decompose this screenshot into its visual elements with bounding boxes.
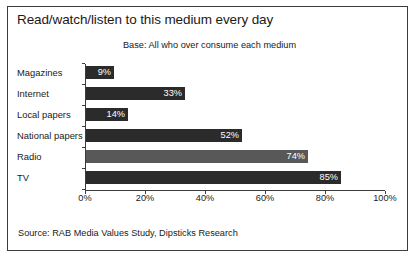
bar <box>86 150 308 163</box>
x-axis-tick <box>145 191 146 194</box>
y-axis-tick <box>82 189 85 190</box>
chart-subtitle: Base: All who over consume each medium <box>17 40 402 50</box>
y-axis-tick <box>82 126 85 127</box>
plot-area: 9%33%14%52%74%85% <box>85 64 385 191</box>
x-axis-tick <box>325 191 326 194</box>
bar <box>86 171 341 184</box>
y-axis-tick <box>82 147 85 148</box>
bar-value-label: 85% <box>313 171 341 184</box>
category-label: Magazines <box>17 67 62 78</box>
bar-value-label: 52% <box>214 129 242 142</box>
x-axis-tick-label: 60% <box>256 193 274 203</box>
x-axis-tick-label: 20% <box>136 193 154 203</box>
x-axis-line <box>85 190 385 191</box>
category-label: Local papers <box>17 109 71 120</box>
x-axis-tick <box>385 191 386 194</box>
slide-canvas: Read/watch/listen to this medium every d… <box>0 0 416 259</box>
bar-value-label: 9% <box>86 66 114 79</box>
category-label: Radio <box>17 151 42 162</box>
y-axis-tick <box>82 168 85 169</box>
y-axis-tick <box>82 105 85 106</box>
x-axis-tick <box>85 191 86 194</box>
y-axis-tick <box>82 63 85 64</box>
source-note: Source: RAB Media Values Study, Dipstick… <box>18 228 238 238</box>
x-axis-tick-label: 40% <box>196 193 214 203</box>
x-axis-tick <box>265 191 266 194</box>
bar-value-label: 74% <box>280 150 308 163</box>
x-axis-tick-label: 100% <box>373 193 397 203</box>
x-axis-tick <box>205 191 206 194</box>
bar-value-label: 14% <box>100 108 128 121</box>
category-label: National papers <box>17 130 83 141</box>
x-axis-tick-label: 0% <box>78 193 91 203</box>
x-axis-tick-label: 80% <box>316 193 334 203</box>
chart-title: Read/watch/listen to this medium every d… <box>17 12 273 27</box>
category-label: TV <box>17 172 29 183</box>
bar-value-label: 33% <box>157 87 185 100</box>
category-label: Internet <box>17 88 49 99</box>
y-axis-tick <box>82 84 85 85</box>
